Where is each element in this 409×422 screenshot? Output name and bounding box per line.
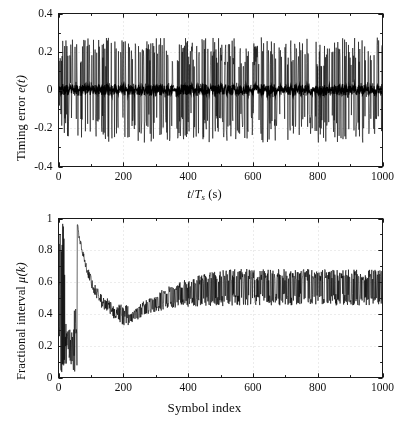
figure-container: Timing error e(t) t/Ts (s) 0200400600800…	[0, 0, 409, 422]
timing-error-y-tick-label: 0	[7, 83, 53, 95]
timing-error-y-tick-label: -0.2	[7, 121, 53, 133]
fractional-interval-y-tick-label: 0.2	[7, 339, 53, 351]
timing-error-x-axis-label: t/Ts (s)	[0, 187, 409, 202]
timing-error-y-tick-label: 0.2	[7, 45, 53, 57]
fractional-interval-x-tick-label: 200	[93, 381, 153, 393]
fractional-interval-y-tick-label: 1	[7, 212, 53, 224]
timing-error-x-tick-label: 800	[288, 170, 348, 182]
timing-error-x-tick-label: 1000	[353, 170, 409, 182]
timing-error-x-tick-label: 600	[223, 170, 283, 182]
fractional-interval-x-tick-label: 1000	[353, 381, 409, 393]
fractional-interval-panel: Fractional interval μ(k) Symbol index 02…	[0, 211, 409, 422]
timing-error-x-tick-label: 400	[158, 170, 218, 182]
fractional-interval-x-axis-label: Symbol index	[0, 400, 409, 416]
fractional-interval-y-tick-label: 0.8	[7, 243, 53, 255]
timing-error-x-tick-label: 200	[93, 170, 153, 182]
fractional-interval-x-tick-label: 400	[158, 381, 218, 393]
fractional-interval-y-tick-label: 0	[7, 371, 53, 383]
timing-error-y-tick-label: 0.4	[7, 7, 53, 19]
fractional-interval-y-tick-label: 0.4	[7, 307, 53, 319]
fractional-interval-x-tick-label: 600	[223, 381, 283, 393]
timing-error-y-tick-label: -0.4	[7, 160, 53, 172]
fractional-interval-y-tick-label: 0.6	[7, 275, 53, 287]
timing-error-panel: Timing error e(t) t/Ts (s) 0200400600800…	[0, 0, 409, 211]
fractional-interval-x-tick-label: 800	[288, 381, 348, 393]
